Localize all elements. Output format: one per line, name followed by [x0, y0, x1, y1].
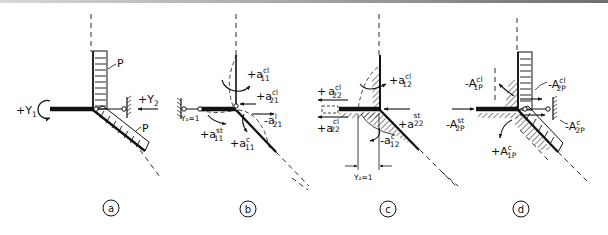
distributed-load-top	[518, 52, 532, 110]
moment-arrow-icon	[208, 115, 226, 124]
distributed-load-diagonal	[93, 106, 149, 151]
load-label-top: P	[117, 57, 124, 70]
label-A1P-cl: -Acl1P	[465, 75, 483, 92]
label-a22-cl-top: +acl22	[317, 83, 342, 100]
panel-c: Y₂=1 +acl22 +acl22 +acl12 +a22st -ac12 c	[292, 14, 456, 217]
panel-label-c: c	[385, 204, 391, 215]
label-a22-cl-bottom: +acl22	[317, 117, 340, 135]
moment-arrow-icon	[243, 114, 247, 132]
panel-a: P P +Y1 +Y2 a	[16, 14, 160, 216]
moment-arrow-icon	[500, 120, 512, 138]
panel-label-a: a	[108, 203, 114, 214]
label-A2P-c: -Ac2P	[565, 118, 585, 135]
label-a12-cl: +acl12	[389, 72, 412, 89]
panel-label-b: b	[245, 204, 251, 215]
panel-d: -Acl1P -Acl2P -Ast2P -Ac2P +Ac1P d	[442, 18, 590, 217]
axis-dashed	[140, 150, 160, 177]
rotation-label-Y1: +Y1	[16, 104, 37, 119]
support-hinge	[122, 107, 126, 111]
translation-label-Y2: +Y2	[138, 93, 159, 108]
support-hinge	[546, 107, 550, 111]
support-hinge	[182, 107, 186, 111]
label-a11-st: +ast11	[200, 126, 224, 143]
axis-dashed	[420, 150, 456, 186]
hinge-joint	[523, 107, 527, 111]
frame-diagram: P P +Y1 +Y2 a	[0, 0, 608, 235]
axis-dashed	[442, 172, 458, 186]
label-a11-cl: +acl11	[247, 66, 270, 83]
distributed-load-top	[93, 51, 107, 110]
axis-dashed	[292, 178, 308, 190]
displaced-end-dashed	[322, 106, 338, 113]
label-A2P-cl: -Acl2P	[548, 76, 566, 93]
label-a21-cl: +acl21	[256, 88, 279, 105]
panel-label-d: d	[518, 204, 524, 215]
fixed-support-hatch	[127, 96, 131, 118]
leader-line	[535, 82, 547, 90]
load-label-diagonal: P	[142, 122, 149, 135]
moment-diagram-hatch	[478, 113, 518, 118]
label-a11-c: +ac11	[230, 135, 255, 152]
label-a21-l: -al21	[264, 112, 283, 129]
axis-dashed	[558, 152, 590, 184]
rotation-arrow-icon	[38, 101, 50, 119]
leader-line	[108, 64, 116, 69]
label-A1P-c: +Ac1P	[491, 143, 517, 160]
label-A2P-st: -Ast2P	[446, 116, 465, 133]
hinge-joint	[198, 107, 202, 111]
leader-line	[136, 127, 141, 131]
panel-b: +acl11 +acl21 -al21 Y₁=1 +ast11 +ac11 b	[140, 14, 309, 217]
label-imposed-Y2: Y₂=1	[353, 173, 373, 182]
fixed-support-hatch	[553, 96, 557, 120]
hinge-joint	[234, 104, 238, 108]
label-a22-st: +a22st	[398, 111, 424, 131]
axis-dashed	[276, 152, 309, 186]
label-imposed-Y1: Y₁=1	[180, 114, 200, 123]
hinge-joint	[94, 107, 98, 111]
